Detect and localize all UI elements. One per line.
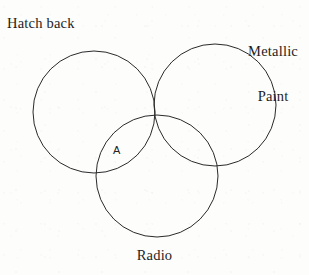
set-label-metallic-paint: Metallic Paint (248, 14, 298, 134)
venn-diagram-figure: Hatch back Metallic Paint Radio A (0, 0, 309, 275)
circle-hatch-back (33, 51, 155, 173)
set-label-metallic-paint-line1: Metallic (248, 44, 298, 59)
set-label-radio: Radio (0, 248, 309, 263)
region-label-a: A (113, 143, 121, 158)
set-label-hatch-back: Hatch back (7, 16, 75, 31)
circle-radio (96, 115, 218, 237)
set-label-metallic-paint-line2: Paint (248, 89, 298, 104)
